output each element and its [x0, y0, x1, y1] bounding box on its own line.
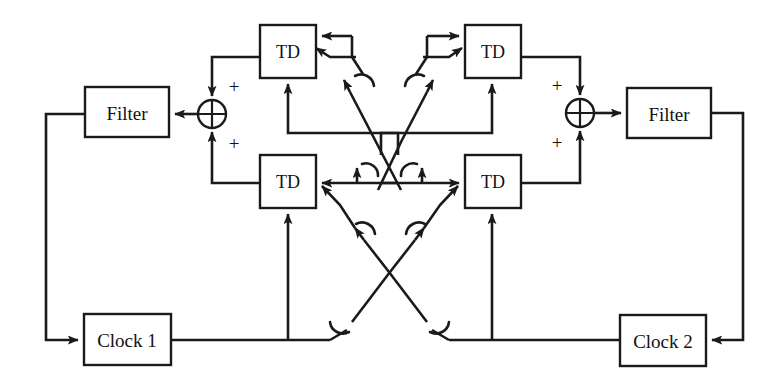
wire-hop-mid-right — [401, 163, 417, 176]
block-diagram-canvas: Filter Filter TD TD TD TD Clock 1 — [0, 0, 779, 382]
block-td-bottom-left-label: TD — [276, 172, 300, 192]
sign-left-top: + — [229, 76, 240, 97]
wire-lower-left-leg-up — [322, 186, 355, 228]
block-filter-left-label: Filter — [106, 103, 148, 124]
block-filter-left[interactable]: Filter — [85, 87, 169, 137]
wire-cross-lower-left-to-right — [352, 228, 424, 322]
wire-hop-upper-right — [405, 74, 424, 86]
wire-hop-mid-left — [362, 163, 378, 176]
block-td-top-right-label: TD — [481, 42, 505, 62]
wire-tdtr-to-sumright — [521, 57, 580, 95]
wire-tdbr-to-sumright — [521, 131, 580, 183]
block-clock-1-label: Clock 1 — [97, 330, 157, 351]
block-clock-2[interactable]: Clock 2 — [620, 315, 706, 366]
sign-left-bottom: + — [229, 133, 240, 154]
sign-right-bottom: + — [552, 132, 563, 153]
summing-junction-right — [566, 99, 594, 127]
block-filter-right-label: Filter — [648, 104, 690, 125]
block-td-top-right[interactable]: TD — [465, 25, 521, 78]
block-td-bottom-left[interactable]: TD — [260, 155, 316, 208]
wire-stub-upper-left — [352, 57, 363, 74]
block-td-bottom-right-label: TD — [481, 172, 505, 192]
block-td-top-left[interactable]: TD — [260, 25, 316, 78]
wire-filter-right-to-clock2 — [711, 113, 743, 340]
block-td-bottom-right[interactable]: TD — [465, 155, 521, 208]
block-clock-2-label: Clock 2 — [633, 331, 693, 352]
wire-filter-left-to-clock1 — [46, 114, 85, 340]
block-td-top-left-label: TD — [276, 42, 300, 62]
wire-cross-lower-right-to-left — [355, 228, 427, 322]
diagram-svg: Filter Filter TD TD TD TD Clock 1 — [0, 0, 779, 382]
wire-hop-upper-left — [355, 74, 374, 86]
wire-stub-upper-right — [416, 57, 427, 74]
wire-clock1-out — [171, 330, 347, 340]
wire-lower-right-leg-up — [424, 186, 458, 228]
summing-junction-left — [198, 100, 226, 128]
block-filter-right[interactable]: Filter — [627, 88, 711, 138]
block-clock-1[interactable]: Clock 1 — [84, 314, 171, 365]
wire-clock2-out — [432, 330, 620, 340]
sign-right-top: + — [552, 75, 563, 96]
